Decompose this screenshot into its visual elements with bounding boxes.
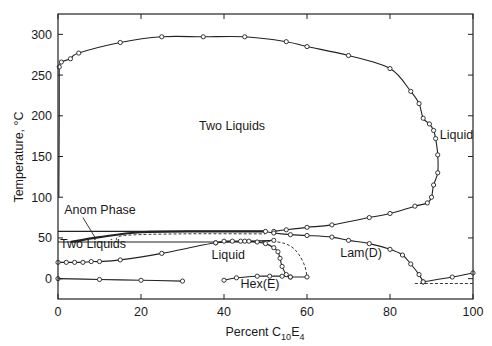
data-point-marker: [118, 258, 122, 262]
region-label: Two Liquids: [60, 237, 126, 251]
data-point-marker: [409, 89, 413, 93]
phase-boundary-curve: [58, 279, 183, 281]
data-point-marker: [400, 253, 404, 257]
data-point-marker: [222, 278, 226, 282]
x-tick-label: 0: [55, 305, 62, 319]
data-point-marker: [346, 53, 350, 57]
data-point-marker: [160, 251, 164, 255]
data-point-marker: [255, 240, 259, 244]
region-label: Hex(E): [241, 277, 280, 291]
data-point-marker: [77, 51, 81, 55]
data-point-marker: [421, 280, 425, 284]
data-point-marker: [272, 246, 276, 250]
data-point-marker: [59, 60, 63, 64]
data-point-marker: [450, 275, 454, 279]
data-point-marker: [247, 239, 251, 243]
data-point-marker: [180, 279, 184, 283]
data-point-marker: [417, 272, 421, 276]
data-point-marker: [243, 239, 247, 243]
y-tick-label: 50: [38, 231, 52, 245]
data-point-marker: [276, 250, 280, 254]
x-axis-label: Percent C10E4: [226, 325, 305, 342]
data-point-marker: [429, 195, 433, 199]
data-point-marker: [89, 259, 93, 263]
data-point-marker: [421, 116, 425, 120]
data-point-marker: [243, 35, 247, 39]
data-point-marker: [272, 238, 276, 242]
data-point-marker: [68, 57, 72, 61]
data-point-marker: [284, 272, 288, 276]
data-point-marker: [288, 233, 292, 237]
data-point-marker: [305, 225, 309, 229]
data-point-marker: [388, 211, 392, 215]
data-point-marker: [417, 101, 421, 105]
data-point-marker: [305, 275, 309, 279]
data-point-marker: [288, 275, 292, 279]
data-point-marker: [305, 233, 309, 237]
data-point-marker: [239, 239, 243, 243]
y-tick-label: 250: [31, 69, 52, 83]
data-point-marker: [431, 183, 435, 187]
data-point-marker: [201, 35, 205, 39]
data-point-marker: [97, 259, 101, 263]
data-point-marker: [222, 239, 226, 243]
x-tick-label: 20: [134, 305, 148, 319]
data-point-marker: [230, 239, 234, 243]
data-point-marker: [413, 204, 417, 208]
region-label: Anom Phase: [64, 203, 136, 217]
data-point-marker: [431, 128, 435, 132]
y-tick-label: 200: [31, 109, 52, 123]
region-label: Two Liquids: [199, 119, 265, 133]
data-point-marker: [263, 229, 267, 233]
data-point-marker: [284, 40, 288, 44]
data-point-marker: [305, 44, 309, 48]
data-point-marker: [234, 276, 238, 280]
x-tick-label: 80: [383, 305, 397, 319]
y-tick-label: 150: [31, 150, 52, 164]
data-point-marker: [278, 256, 282, 260]
data-point-marker: [81, 260, 85, 264]
phase-diagram: 020406080100 050100150200250300 Two Liqu…: [0, 0, 492, 346]
data-point-marker: [139, 278, 143, 282]
y-axis-label: Temperature, °C: [12, 111, 26, 202]
data-point-marker: [263, 242, 267, 246]
data-point-marker: [118, 40, 122, 44]
data-point-marker: [425, 201, 429, 205]
data-point-marker: [409, 262, 413, 266]
data-point-marker: [436, 153, 440, 157]
x-tick-label: 60: [300, 305, 314, 319]
data-point-marker: [388, 66, 392, 70]
data-point-marker: [272, 231, 276, 235]
data-point-marker: [64, 260, 68, 264]
data-point-marker: [434, 136, 438, 140]
phase-boundary-curve: [59, 36, 438, 231]
data-point-marker: [427, 122, 431, 126]
data-point-marker: [436, 171, 440, 175]
plot-frame: [58, 14, 473, 299]
region-label: Liquid: [440, 128, 473, 142]
anom-phase-leader: [83, 218, 95, 238]
data-point-marker: [280, 264, 284, 268]
data-point-marker: [284, 228, 288, 232]
data-point-marker: [330, 223, 334, 227]
data-point-marker: [388, 247, 392, 251]
data-point-marker: [73, 260, 77, 264]
data-point-marker: [367, 215, 371, 219]
data-point-marker: [280, 274, 284, 278]
data-point-marker: [160, 35, 164, 39]
y-tick-label: 0: [45, 272, 52, 286]
data-point-marker: [97, 277, 101, 281]
phase-boundary-curve: [423, 273, 473, 282]
region-label: Lam(D): [340, 246, 382, 260]
x-tick-label: 40: [217, 305, 231, 319]
y-tick-label: 300: [31, 28, 52, 42]
data-point-marker: [346, 238, 350, 242]
region-label: Liquid: [212, 248, 245, 262]
data-point-marker: [330, 235, 334, 239]
data-point-marker: [214, 241, 218, 245]
x-tick-label: 100: [463, 305, 484, 319]
y-tick-label: 100: [31, 191, 52, 205]
